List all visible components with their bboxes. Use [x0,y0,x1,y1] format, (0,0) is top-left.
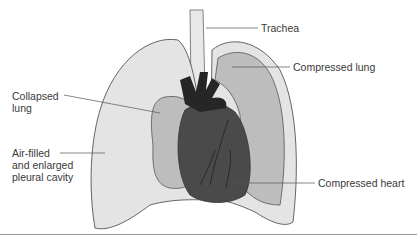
label-compressed-lung: Compressed lung [293,61,375,73]
label-trachea: Trachea [261,22,299,34]
label-compressed-heart: Compressed heart [318,177,404,189]
label-collapsed-lung: Collapsed lung [12,90,59,114]
bottom-rule [0,234,417,235]
thorax-diagram [0,0,417,243]
label-pleural-cavity: Air-filled and enlarged pleural cavity [12,147,73,183]
